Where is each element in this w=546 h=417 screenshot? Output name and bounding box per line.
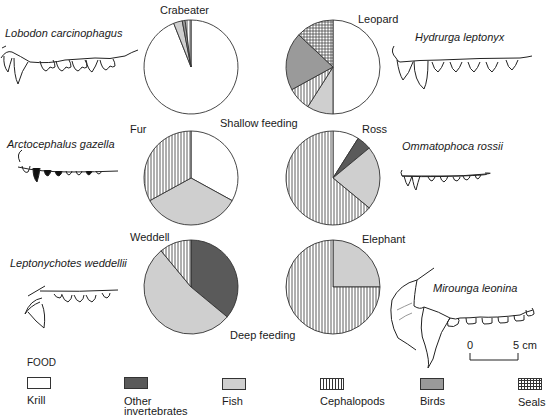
legend-title: FOOD <box>27 357 56 368</box>
leptonychotes-jaw-illustration <box>25 286 118 328</box>
jaw-drawings <box>1 46 534 368</box>
pie-crabeater <box>144 20 238 114</box>
pie-charts <box>144 20 380 334</box>
legend-label-invertebrates: invertebrates <box>124 406 188 417</box>
legend-label-cephalopods: Cephalopods <box>320 396 385 407</box>
pie-label-ross: Ross <box>362 123 387 135</box>
legend-swatch-cephalopods <box>320 378 344 390</box>
slice-krill <box>333 20 380 114</box>
shallow-feeding-label: Shallow feeding <box>220 117 298 129</box>
legend-swatch-other-invertebrates <box>124 377 148 389</box>
legend-swatch-krill <box>27 377 51 389</box>
pie-label-crabeater: Crabeater <box>160 4 209 16</box>
scale-zero-label: 0 <box>467 340 473 351</box>
pie-elephant <box>286 240 380 334</box>
species-arctocephalus: Arctocephalus gazella <box>7 138 115 150</box>
arctocephalus-jaw-illustration <box>18 150 118 182</box>
species-lobodon: Lobodon carcinophagus <box>5 27 122 39</box>
slice-fish <box>333 240 380 287</box>
lobodon-jaw-illustration <box>1 46 138 84</box>
scale-end-label: 5 cm <box>513 340 537 351</box>
pie-label-weddell: Weddell <box>130 231 170 243</box>
legend-swatch-seals <box>518 378 542 390</box>
scale-bar <box>470 353 518 360</box>
legend-label-seals: Seals <box>518 397 546 408</box>
legend-label-fish: Fish <box>222 396 243 407</box>
legend-swatch-birds <box>420 378 444 390</box>
species-ommatophoca: Ommatophoca rossii <box>402 140 503 152</box>
species-leptonychotes: Leptonychotes weddellii <box>10 257 127 269</box>
hydrurga-jaw-illustration <box>392 46 532 89</box>
pie-ross <box>286 131 380 225</box>
pie-weddell <box>144 240 238 334</box>
pie-label-fur: Fur <box>130 123 147 135</box>
ommatophoca-jaw-illustration <box>401 170 490 190</box>
deep-feeding-label: Deep feeding <box>230 329 295 341</box>
legend-label-krill: Krill <box>27 395 45 406</box>
legend-swatch-fish <box>222 378 246 390</box>
pie-label-elephant: Elephant <box>362 233 405 245</box>
pie-fur <box>144 131 238 225</box>
pie-leopard <box>286 20 380 114</box>
species-hydrurga: Hydrurga leptonyx <box>415 31 504 43</box>
legend-label-birds: Birds <box>420 396 445 407</box>
pie-label-leopard: Leopard <box>358 13 398 25</box>
species-mirounga: Mirounga leonina <box>433 282 517 294</box>
